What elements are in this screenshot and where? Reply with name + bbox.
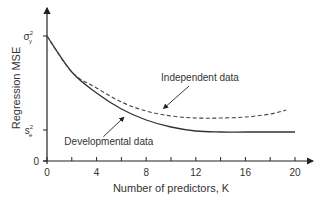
x-tick-label: 12 [190,167,202,178]
y-tick-label: 0 [33,156,39,167]
annotation-arrow [164,86,190,109]
x-tick-label: 8 [143,167,149,178]
y-tick-label: σ2y [23,30,33,44]
chart-svg: 0481216200s2eσ2y Independent dataDevelop… [0,0,332,198]
y-tick-label: s2e [25,124,34,138]
y-axis-label: Regression MSE [10,47,22,130]
series-lines [47,36,295,132]
regression-mse-chart: 0481216200s2eσ2y Independent dataDevelop… [0,0,332,198]
x-tick-label: 20 [289,167,301,178]
annotations: Independent dataDevelopmental data [64,72,239,147]
annotation-arrow [103,117,124,137]
independent-data-label: Independent data [161,72,239,83]
x-tick-label: 16 [240,167,252,178]
developmental-data-label: Developmental data [64,136,153,147]
x-tick-label: 0 [44,167,50,178]
x-tick-label: 4 [94,167,100,178]
axes: 0481216200s2eσ2y [23,8,313,178]
x-axis-label: Number of predictors, K [113,182,230,194]
developmental-data-line [47,36,295,132]
